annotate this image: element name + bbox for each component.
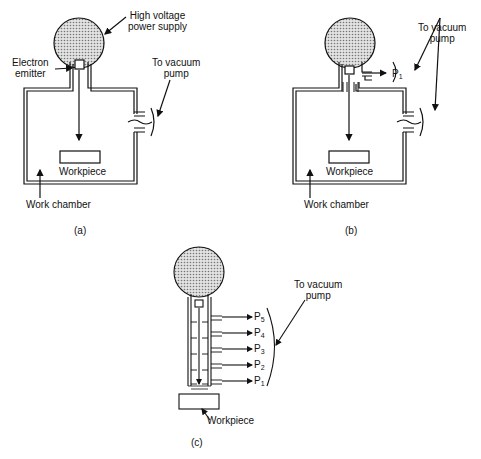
caption-a: (a) (74, 225, 86, 236)
power-supply-sphere (174, 247, 224, 297)
chamber-label-a: Work chamber (26, 199, 91, 210)
electron-beam-diagram (0, 0, 481, 459)
workpiece-c (179, 394, 219, 409)
workpiece-label-b: Workpiece (326, 166, 373, 177)
stage-label-p1: P1 (254, 375, 265, 389)
workpiece-a (60, 151, 100, 163)
stage-label-p3: P3 (254, 343, 265, 357)
stage-label-p2: P2 (254, 359, 265, 373)
caption-b: (b) (345, 225, 357, 236)
power-supply-sphere (325, 18, 375, 68)
stage-arrows (222, 317, 252, 381)
emitter-label: Electronemitter (12, 57, 49, 79)
workpiece-b (329, 151, 369, 163)
electron-emitter (75, 60, 84, 69)
vacuum-label-c: To vacuumpump (294, 279, 342, 301)
vacuum-label-b: To vacuumpump (418, 22, 466, 44)
p1-label-b: P1 (392, 68, 403, 82)
vacuum-label-a: To vacuumpump (152, 57, 200, 79)
stage-baffles (191, 316, 222, 384)
panel-c (174, 247, 305, 420)
stage-label-p5: P5 (254, 311, 265, 325)
caption-c: (c) (191, 437, 203, 448)
workpiece-label-a: Workpiece (59, 166, 106, 177)
stage-label-p4: P4 (254, 327, 265, 341)
chamber-label-b: Work chamber (304, 199, 369, 210)
power-supply-label: High voltagepower supply (128, 10, 187, 32)
workpiece-label-c: Workpiece (207, 415, 254, 426)
